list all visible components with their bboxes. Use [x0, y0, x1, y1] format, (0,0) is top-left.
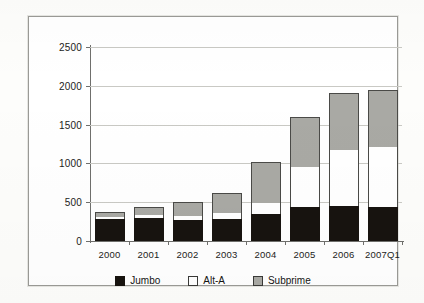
y-tick-label: 2500 [59, 42, 82, 53]
x-tick-mark [246, 241, 247, 245]
x-tick-mark [324, 241, 325, 245]
bar-series-layer [90, 47, 402, 241]
bar-segment-subprime-2002 [173, 202, 203, 216]
x-tick-mark [129, 241, 130, 245]
bar-segment-jumbo-2004 [251, 214, 281, 241]
x-tick-mark [207, 241, 208, 245]
stacked-bar-2006 [329, 93, 359, 241]
x-axis-line [90, 241, 404, 242]
bar-segment-jumbo-2005 [290, 207, 320, 241]
white-square-icon [188, 276, 198, 286]
x-tick-mark [168, 241, 169, 245]
legend-item-jumbo: Jumbo [115, 275, 160, 286]
bar-segment-jumbo-2007Q1 [368, 207, 398, 241]
bar-segment-jumbo-2001 [134, 218, 164, 241]
bar-segment-alt-a-2005 [290, 167, 320, 207]
stacked-bar-2001 [134, 207, 164, 241]
stacked-bar-2004 [251, 162, 281, 241]
bar-segment-jumbo-2006 [329, 206, 359, 241]
y-tick-label: 2000 [59, 80, 82, 91]
bar-segment-subprime-2007Q1 [368, 90, 398, 147]
y-tick-label: 1000 [59, 158, 82, 169]
bar-segment-subprime-2003 [212, 193, 242, 213]
chart-legend: JumboAlt-ASubprime [29, 275, 397, 286]
bar-segment-alt-a-2007Q1 [368, 147, 398, 207]
bar-segment-jumbo-2003 [212, 219, 242, 241]
stacked-bar-2000 [95, 212, 125, 241]
legend-item-alt-a: Alt-A [188, 275, 225, 286]
chart-screenshot: 05001000150020002500 2000200120022003200… [0, 0, 424, 303]
bar-segment-subprime-2005 [290, 117, 320, 167]
bar-segment-jumbo-2002 [173, 220, 203, 241]
x-tick-label-2006: 2006 [333, 249, 355, 260]
stacked-bar-2007Q1 [368, 90, 398, 241]
x-tick-label-2001: 2001 [138, 249, 160, 260]
bar-segment-alt-a-2004 [251, 203, 281, 214]
legend-label: Subprime [268, 275, 311, 286]
chart-frame: 05001000150020002500 2000200120022003200… [28, 16, 398, 286]
stacked-bar-2002 [173, 202, 203, 241]
x-tick-label-2002: 2002 [177, 249, 199, 260]
y-tick-mark [86, 241, 90, 242]
y-tick-label: 0 [76, 236, 82, 247]
y-tick-label: 1500 [59, 119, 82, 130]
x-tick-label-2005: 2005 [294, 249, 316, 260]
x-tick-label-2004: 2004 [255, 249, 277, 260]
stacked-bar-2003 [212, 193, 242, 241]
gray-square-icon [253, 276, 263, 286]
x-tick-label-2003: 2003 [216, 249, 238, 260]
bar-segment-subprime-2006 [329, 93, 359, 150]
x-tick-mark [363, 241, 364, 245]
bar-segment-subprime-2004 [251, 162, 281, 202]
legend-label: Jumbo [130, 275, 160, 286]
x-tick-mark [402, 241, 403, 245]
black-square-icon [115, 276, 125, 286]
legend-item-subprime: Subprime [253, 275, 311, 286]
stacked-bar-2005 [290, 117, 320, 241]
legend-label: Alt-A [203, 275, 225, 286]
bar-segment-alt-a-2006 [329, 150, 359, 206]
bar-segment-subprime-2001 [134, 207, 164, 216]
x-tick-label-2000: 2000 [99, 249, 121, 260]
bar-segment-jumbo-2000 [95, 219, 125, 241]
plot-area: 05001000150020002500 [90, 47, 402, 241]
y-tick-label: 500 [65, 197, 82, 208]
x-tick-label-2007Q1: 2007Q1 [365, 249, 400, 260]
x-tick-mark [285, 241, 286, 245]
